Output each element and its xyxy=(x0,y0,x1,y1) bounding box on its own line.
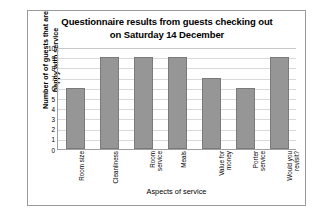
y-tick-label-2: 2 xyxy=(36,126,55,133)
bar xyxy=(134,57,153,149)
y-axis-tick-labels: 109876543210 xyxy=(36,43,55,155)
bars-layer xyxy=(58,48,296,149)
bar xyxy=(100,57,119,149)
bar xyxy=(168,57,187,149)
bar xyxy=(66,88,85,149)
y-tick-label-9: 9 xyxy=(36,55,55,62)
x-axis-title: Aspects of service xyxy=(57,187,296,196)
y-tick-label-6: 6 xyxy=(36,85,55,92)
bar xyxy=(236,88,255,149)
y-tick-label-3: 3 xyxy=(36,116,55,123)
y-tick-label-7: 7 xyxy=(36,75,55,82)
y-tick-label-4: 4 xyxy=(36,106,55,113)
y-tick-label-5: 5 xyxy=(36,96,55,103)
y-tick-label-10: 10 xyxy=(36,45,55,52)
chart-figure: Questionnaire results from guests checki… xyxy=(27,10,306,206)
bar xyxy=(270,57,289,149)
chart-title-line-1: Questionnaire results from guests checki… xyxy=(38,16,296,29)
y-tick-label-0: 0 xyxy=(36,147,55,154)
chart-title: Questionnaire results from guests checki… xyxy=(38,16,296,41)
y-tick-label-1: 1 xyxy=(36,136,55,143)
bar xyxy=(202,78,221,149)
plot-area xyxy=(57,48,296,150)
y-tick-label-8: 8 xyxy=(36,65,55,72)
chart-title-line-2: on Saturday 14 December xyxy=(38,29,296,42)
